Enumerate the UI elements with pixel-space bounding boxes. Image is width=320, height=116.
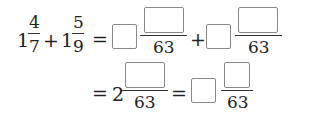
plus-sign: + [190, 30, 206, 49]
answer-box-numerator-3[interactable] [125, 62, 165, 88]
numerator-1: 4 [29, 14, 40, 31]
answer-box-whole-1[interactable] [112, 24, 137, 49]
equals-sign: = [92, 30, 108, 49]
answer-box-whole-2[interactable] [206, 24, 231, 49]
fraction-bar [28, 33, 40, 34]
denominator-2: 9 [73, 38, 84, 55]
plus-sign: + [43, 31, 59, 50]
fraction-bar [72, 33, 84, 34]
denominator-63: 63 [248, 39, 270, 56]
answer-box-whole-3[interactable] [191, 78, 216, 103]
denominator-1: 7 [29, 38, 40, 55]
answer-box-numerator-4[interactable] [224, 62, 250, 88]
denominator-63: 63 [134, 94, 156, 111]
numerator-2: 5 [73, 14, 84, 31]
denominator-63: 63 [153, 39, 175, 56]
equals-sign: = [92, 84, 108, 103]
answer-box-numerator-1[interactable] [144, 7, 184, 33]
denominator-63: 63 [227, 94, 249, 111]
whole-2-mixed: 2 [112, 85, 124, 104]
answer-box-numerator-2[interactable] [238, 7, 278, 33]
equals-sign: = [171, 84, 187, 103]
